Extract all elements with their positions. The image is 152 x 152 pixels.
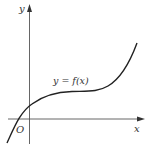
y-axis-arrow-icon <box>27 4 32 12</box>
curve-label: y = f(x) <box>52 75 89 86</box>
function-graph: y x O y = f(x) <box>0 0 152 152</box>
x-axis-label: x <box>134 123 140 134</box>
x-axis-arrow-icon <box>137 117 145 122</box>
function-curve <box>7 43 137 143</box>
x-axis <box>8 117 145 122</box>
origin-label: O <box>16 124 24 135</box>
y-axis <box>27 4 32 144</box>
y-axis-label: y <box>18 3 25 14</box>
